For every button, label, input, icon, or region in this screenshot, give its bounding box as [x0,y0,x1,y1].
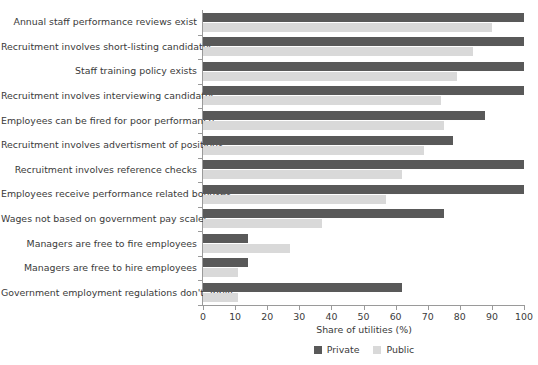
bar-private[interactable] [203,86,524,95]
x-axis-tick [235,306,236,310]
legend-item-private[interactable]: Private [314,344,360,355]
y-axis-label: Recruitment involves reference checks [1,164,197,175]
legend-item-public[interactable]: Public [373,344,414,355]
y-axis-label: Recruitment involves advertisment of pos… [1,139,197,150]
bar-group [203,182,524,207]
y-axis-label: Employees receive performance related bo… [1,188,197,199]
bar-private[interactable] [203,234,248,243]
bar-group [203,35,524,60]
x-axis-tick-label: 40 [325,311,337,322]
bar-group [203,207,524,232]
x-axis-tick [299,306,300,310]
y-axis-tick [198,305,202,306]
y-axis-label: Managers are free to fire employees [1,238,197,249]
x-axis-tick-label: 60 [390,311,402,322]
bar-public[interactable] [203,195,386,204]
x-axis-tick [460,306,461,310]
y-axis-category-labels: Annual staff performance reviews existRe… [0,10,197,305]
y-axis-tick [198,84,202,85]
bar-private[interactable] [203,136,453,145]
x-axis-title: Share of utilities (%) [203,324,525,335]
x-axis-tick-label: 50 [358,311,370,322]
bar-group [203,59,524,84]
horizontal-bar-chart: Annual staff performance reviews existRe… [0,0,538,365]
y-axis-tick [198,231,202,232]
x-axis-tick-label: 30 [293,311,305,322]
y-axis-tick [198,133,202,134]
x-axis-tick [267,306,268,310]
bar-private[interactable] [203,185,524,194]
x-axis-tick-label: 20 [261,311,273,322]
x-axis-tick-label: 100 [515,311,533,322]
x-axis-tick-label: 90 [486,311,498,322]
x-axis-tick-label: 70 [422,311,434,322]
y-axis-tick [198,59,202,60]
bar-public[interactable] [203,244,290,253]
y-axis-label: Managers are free to hire employees [1,262,197,273]
bar-private[interactable] [203,62,524,71]
y-axis-tick [198,256,202,257]
x-axis-tick [364,306,365,310]
y-axis-tick [198,280,202,281]
bar-group [203,108,524,133]
bar-public[interactable] [203,96,441,105]
bar-public[interactable] [203,219,322,228]
y-axis-tick [198,158,202,159]
bar-private[interactable] [203,160,524,169]
bar-public[interactable] [203,121,444,130]
bar-public[interactable] [203,293,238,302]
bar-public[interactable] [203,268,238,277]
y-axis-tick [198,108,202,109]
bar-public[interactable] [203,47,473,56]
bar-group [203,231,524,256]
x-axis-tick [396,306,397,310]
y-axis-label: Government employment regulations don't … [1,287,197,298]
x-axis-tick [492,306,493,310]
bar-group [203,10,524,35]
bar-group [203,158,524,183]
y-axis-label: Recruitment involves interviewing candid… [1,90,197,101]
bar-group [203,280,524,305]
legend-swatch-private-icon [314,346,322,354]
legend-label-public: Public [386,344,414,355]
plot-area [203,10,524,305]
y-axis-label: Annual staff performance reviews exist [1,16,197,27]
y-axis-label: Staff training policy exists [1,65,197,76]
x-axis-tick [331,306,332,310]
x-axis-tick [524,306,525,310]
bar-public[interactable] [203,170,402,179]
x-axis-tick-label: 80 [454,311,466,322]
bar-public[interactable] [203,72,457,81]
x-axis-tick-label: 0 [200,311,206,322]
y-axis-label: Recruitment involves short-listing candi… [1,41,197,52]
x-axis-ticks: 0102030405060708090100 [203,306,525,326]
bar-private[interactable] [203,111,485,120]
bar-private[interactable] [203,37,524,46]
y-axis-label: Employees can be fired for poor performa… [1,115,197,126]
bar-private[interactable] [203,258,248,267]
y-axis-tick [198,182,202,183]
bar-group [203,133,524,158]
legend-swatch-public-icon [373,346,381,354]
bar-private[interactable] [203,283,402,292]
bar-private[interactable] [203,209,444,218]
bar-private[interactable] [203,13,524,22]
bar-public[interactable] [203,23,492,32]
chart-legend: Private Public [203,344,525,355]
bar-group [203,256,524,281]
x-axis-tick-label: 10 [229,311,241,322]
bar-group [203,84,524,109]
y-axis-label: Wages not based on government pay scales [1,213,197,224]
x-axis-tick [428,306,429,310]
y-axis-tick [198,35,202,36]
bar-public[interactable] [203,146,424,155]
y-axis-tick [198,207,202,208]
x-axis-tick [203,306,204,310]
legend-label-private: Private [327,344,360,355]
